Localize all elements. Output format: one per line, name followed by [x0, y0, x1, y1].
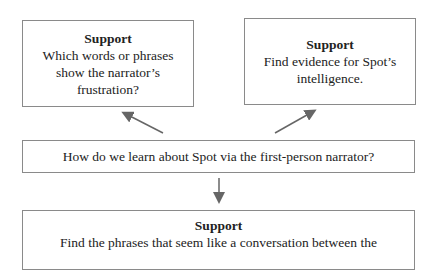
support-title: Support: [245, 36, 415, 53]
support-title: Support: [23, 30, 193, 47]
arrow-to-left-support: [124, 113, 163, 133]
support-text-line: intelligence.: [245, 70, 415, 87]
support-text-line: Find the phrases that seem like a conver…: [23, 234, 414, 251]
central-question-box: How do we learn about Spot via the first…: [22, 140, 415, 173]
arrow-to-right-support: [275, 111, 314, 133]
support-text-line: show the narrator’s: [23, 64, 193, 81]
support-box-intelligence: Support Find evidence for Spot’s intelli…: [244, 18, 416, 105]
support-text-line: Which words or phrases: [23, 47, 193, 64]
support-box-frustration: Support Which words or phrases show the …: [22, 20, 194, 107]
support-title: Support: [23, 217, 414, 234]
support-box-conversation: Support Find the phrases that seem like …: [22, 210, 415, 270]
central-question: How do we learn about Spot via the first…: [23, 148, 414, 165]
support-text-line: frustration?: [23, 81, 193, 98]
support-text-line: Find evidence for Spot’s: [245, 53, 415, 70]
